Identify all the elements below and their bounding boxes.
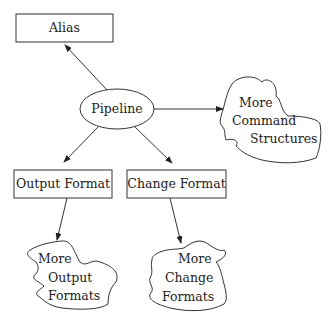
node-pipeline-label: Pipeline — [91, 101, 142, 116]
edge-pipeline-alias — [65, 45, 107, 90]
edge-change-format-more-change-formats — [170, 198, 181, 243]
node-output-format: Output Format — [14, 170, 112, 198]
node-more-command-structures-line-3: Structures — [250, 131, 317, 146]
node-more-output-formats-line-1: More — [38, 251, 72, 266]
node-change-format: Change Format — [127, 170, 226, 198]
node-more-command-structures: More Command Structures — [220, 77, 320, 163]
node-more-output-formats: More Output Formats — [28, 241, 118, 309]
node-more-command-structures-line-2: Command — [232, 113, 296, 128]
node-more-change-formats-line-3: Formats — [162, 289, 214, 304]
node-more-change-formats: More Change Formats — [150, 241, 227, 311]
node-more-output-formats-line-2: Output — [48, 270, 92, 285]
node-pipeline: Pipeline — [80, 89, 154, 129]
edge-output-format-more-output-formats — [57, 198, 67, 240]
node-more-change-formats-line-1: More — [178, 251, 212, 266]
node-more-output-formats-line-3: Formats — [48, 288, 100, 303]
node-output-format-label: Output Format — [16, 176, 110, 191]
edge-pipeline-change-format — [135, 127, 172, 163]
node-alias: Alias — [16, 14, 113, 42]
node-more-change-formats-line-2: Change — [165, 270, 214, 285]
diagram-canvas: Alias Pipeline Output Format Change Form… — [0, 0, 332, 326]
edges — [57, 45, 223, 243]
edge-pipeline-output-format — [64, 127, 98, 162]
node-change-format-label: Change Format — [127, 176, 225, 191]
node-more-command-structures-line-1: More — [239, 95, 273, 110]
node-alias-label: Alias — [48, 20, 80, 35]
